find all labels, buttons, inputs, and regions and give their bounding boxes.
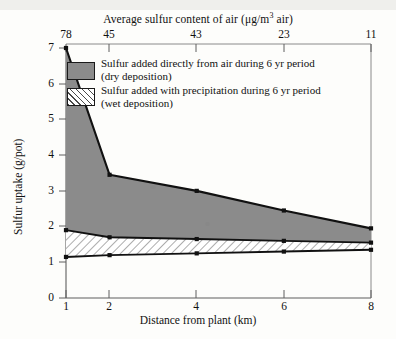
top-tick-label-23: 23	[272, 28, 296, 40]
y-tick-label-3: 3	[38, 184, 54, 196]
legend-swatch-dry-deposition	[67, 62, 95, 80]
y-tick-label-5: 5	[38, 112, 54, 124]
data-point-marker	[282, 239, 286, 243]
chart-figure: Average sulfur content of air (μg/m3 air…	[0, 0, 396, 339]
y-axis-ticks	[59, 48, 66, 298]
legend-swatch-wet-deposition	[67, 88, 95, 106]
top-axis-ticks	[66, 44, 371, 52]
data-point-marker	[64, 46, 68, 50]
data-point-marker	[64, 228, 68, 232]
legend-dry-line2: (dry deposition)	[101, 70, 315, 83]
data-point-marker	[282, 249, 286, 253]
y-tick-label-1: 1	[38, 255, 54, 267]
data-point-marker	[107, 235, 111, 239]
plot-frame	[66, 44, 371, 298]
y-tick-label-6: 6	[38, 77, 54, 89]
x-tick-label-1: 1	[54, 300, 78, 312]
top-tick-label-78: 78	[54, 28, 78, 40]
legend-text-dry-deposition: Sulfur added directly from air during 6 …	[101, 57, 315, 82]
data-point-marker	[369, 248, 373, 252]
y-tick-label-7: 7	[38, 41, 54, 53]
top-tick-label-45: 45	[97, 28, 121, 40]
top-tick-label-11: 11	[359, 28, 383, 40]
data-point-marker	[369, 226, 373, 230]
y-tick-label-0: 0	[38, 291, 54, 303]
legend-wet-line2: (wet deposition)	[101, 97, 321, 110]
y-axis-title: Sulfur uptake (g/pot)	[12, 139, 24, 235]
legend-dry-line1: Sulfur added directly from air during 6 …	[101, 57, 315, 70]
y-tick-label-2: 2	[38, 219, 54, 231]
data-point-marker	[64, 255, 68, 259]
x-axis-title: Distance from plant (km)	[0, 314, 396, 326]
bottom-axis-ticks	[66, 290, 371, 298]
data-point-marker	[282, 208, 286, 212]
data-point-marker	[195, 251, 199, 255]
x-tick-label-2: 2	[97, 300, 121, 312]
data-point-marker	[195, 189, 199, 193]
x-tick-label-8: 8	[359, 300, 383, 312]
data-point-marker	[107, 253, 111, 257]
x-tick-label-6: 6	[272, 300, 296, 312]
data-point-marker	[107, 173, 111, 177]
top-tick-label-43: 43	[184, 28, 208, 40]
x-tick-label-4: 4	[184, 300, 208, 312]
y-tick-label-4: 4	[38, 148, 54, 160]
chart-svg	[0, 0, 396, 339]
data-point-marker	[195, 237, 199, 241]
data-point-marker	[369, 241, 373, 245]
legend-text-wet-deposition: Sulfur added with precipitation during 6…	[101, 84, 321, 109]
legend-wet-line1: Sulfur added with precipitation during 6…	[101, 84, 321, 97]
